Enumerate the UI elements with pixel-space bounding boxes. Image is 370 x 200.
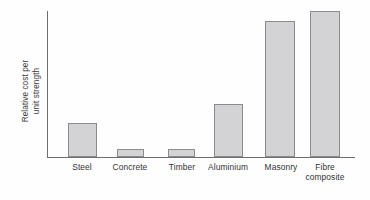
y-axis-label-line-1: Relative cost per (21, 60, 32, 123)
bar-timber (168, 149, 195, 157)
y-axis-label-line-2: unit strength (31, 60, 42, 123)
bar-fibre-composite (310, 11, 340, 157)
y-axis-label: Relative cost per unit strength (21, 60, 42, 123)
bar-chart-figure: Relative cost per unit strength Steel Co… (0, 0, 370, 200)
y-axis-label-container: Relative cost per unit strength (16, 36, 46, 146)
x-tick-label-fibre-composite-line-2: composite (275, 172, 370, 182)
bar-masonry (265, 21, 295, 157)
bar-steel (68, 123, 97, 157)
x-tick-label-fibre-composite-line-1: Fibre (275, 162, 370, 172)
x-tick-label-fibre-composite: Fibre composite (275, 162, 370, 183)
x-axis-line (47, 157, 355, 158)
bar-concrete (117, 149, 144, 157)
bar-aluminium (214, 104, 243, 157)
plot-area (48, 11, 355, 157)
